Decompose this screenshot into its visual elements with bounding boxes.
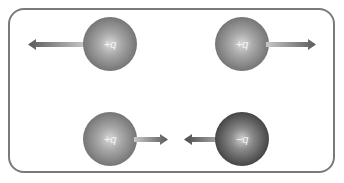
force-arrow-left-icon: [184, 134, 218, 144]
diagram-frame: [8, 8, 335, 173]
charge-label: −q: [236, 133, 249, 145]
charge-label: +q: [104, 38, 117, 50]
charge-sphere-top-right: +q: [215, 17, 269, 71]
force-arrow-right-icon: [134, 134, 168, 144]
charge-sphere-bottom-right: −q: [215, 112, 269, 166]
force-arrow-right-icon: [266, 39, 316, 49]
charge-label: +q: [104, 133, 117, 145]
charge-label: +q: [236, 38, 249, 50]
charge-sphere-bottom-left: +q: [83, 112, 137, 166]
force-arrow-left-icon: [28, 39, 86, 49]
charge-sphere-top-left: +q: [83, 17, 137, 71]
